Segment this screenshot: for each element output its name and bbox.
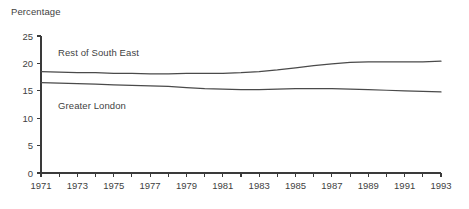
x-tick-label: 1983	[249, 180, 270, 191]
y-axis-tick-labels: 0510152025	[22, 31, 33, 179]
x-tick-label: 1991	[394, 180, 415, 191]
data-line-rest-of-south-east	[41, 61, 441, 74]
y-tick-label: 15	[22, 85, 33, 96]
x-tick-label: 1971	[30, 180, 51, 191]
y-tick-label: 0	[28, 168, 33, 179]
x-tick-label: 1977	[140, 180, 161, 191]
y-axis-tick-marks	[37, 36, 41, 173]
x-tick-label: 1975	[103, 180, 124, 191]
x-tick-label: 1985	[285, 180, 306, 191]
x-tick-label: 1979	[176, 180, 197, 191]
y-tick-label: 10	[22, 113, 33, 124]
y-tick-label: 20	[22, 58, 33, 69]
y-tick-label: 5	[28, 140, 33, 151]
x-axis-tick-marks	[41, 173, 441, 177]
line-chart: Percentage Rest of South East Greater Lo…	[0, 0, 469, 209]
x-tick-label: 1993	[430, 180, 451, 191]
y-tick-label: 25	[22, 31, 33, 42]
x-tick-label: 1981	[212, 180, 233, 191]
plot-area: 0510152025 19711973197519771979198119831…	[0, 0, 469, 209]
x-axis-tick-labels: 1971197319751977197919811983198519871989…	[30, 180, 451, 191]
x-tick-label: 1973	[67, 180, 88, 191]
data-line-greater-london	[41, 83, 441, 92]
x-tick-label: 1989	[358, 180, 379, 191]
x-tick-label: 1987	[321, 180, 342, 191]
